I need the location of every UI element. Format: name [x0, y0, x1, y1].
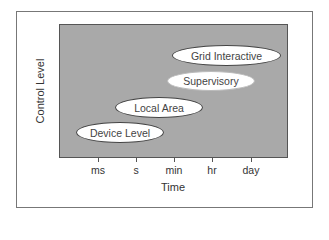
x-tick [174, 158, 175, 162]
level-label: Device Level [90, 127, 150, 139]
level-label: Supervisory [183, 75, 238, 87]
x-tick-label: day [243, 164, 260, 176]
x-tick-label: min [166, 164, 183, 176]
x-tick-label: ms [91, 164, 105, 176]
x-tick-label: s [133, 164, 138, 176]
x-tick [136, 158, 137, 162]
x-tick-label: hr [207, 164, 216, 176]
x-tick [251, 158, 252, 162]
level-device-level: Device Level [76, 122, 164, 143]
level-local-area: Local Area [115, 97, 203, 118]
y-axis-label: Control Level [34, 59, 46, 124]
x-tick [98, 158, 99, 162]
level-supervisory: Supervisory [167, 71, 255, 91]
x-axis-label: Time [161, 181, 185, 193]
x-tick [212, 158, 213, 162]
level-label: Grid Interactive [191, 50, 262, 62]
level-grid-interactive: Grid Interactive [172, 45, 281, 66]
level-label: Local Area [134, 102, 184, 114]
